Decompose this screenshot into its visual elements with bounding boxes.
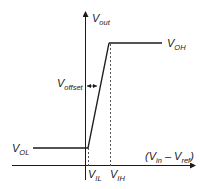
v-oh-label: VOH xyxy=(167,37,186,52)
transition-line xyxy=(88,43,109,148)
v-offset-label: Voffset xyxy=(57,77,84,92)
transfer-characteristic-diagram: Vout VOH VOL Voffset VIL VIH (Vin – Vref… xyxy=(0,0,200,189)
y-axis-label: Vout xyxy=(92,12,111,27)
x-axis-label: (Vin – Vref) xyxy=(145,150,194,165)
v-ih-label: VIH xyxy=(110,168,125,183)
v-ol-label: VOL xyxy=(12,142,29,157)
v-il-label: VIL xyxy=(88,168,102,183)
